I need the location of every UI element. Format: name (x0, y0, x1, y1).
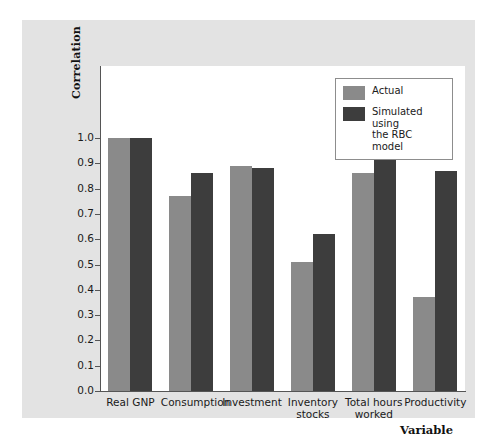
x-axis-category-label-line: Productivity (404, 396, 466, 408)
legend-label-actual: Actual (372, 85, 403, 97)
legend-swatch-actual (343, 86, 365, 100)
y-axis-tick-mark (95, 366, 101, 367)
x-axis-category-label: Consumption (161, 396, 222, 408)
y-axis-tick-mark (95, 265, 101, 266)
y-axis-tick-mark (95, 138, 101, 139)
x-axis-category-label: Total hoursworked (343, 396, 404, 420)
chart-figure: Correlation 1.00.90.80.70.60.50.40.30.20… (0, 0, 495, 438)
bar-simulated (252, 168, 274, 391)
x-axis-category-label-line: worked (355, 408, 393, 420)
figure-panel: Correlation 1.00.90.80.70.60.50.40.30.20… (22, 20, 475, 418)
y-axis-tick: 0.2 (22, 340, 106, 341)
bar-actual (108, 138, 130, 391)
x-axis-category-label-line: Total hours (345, 396, 402, 408)
legend-entry-actual: Actual (343, 85, 445, 100)
bar-actual (169, 196, 191, 391)
y-axis-tick-mark (95, 239, 101, 240)
y-axis-tick-mark (95, 290, 101, 291)
x-axis-title: Variable (400, 423, 453, 437)
x-axis-category-label-line: Investment (222, 396, 281, 408)
legend-swatch-simulated (343, 107, 365, 121)
y-axis-tick-label: 0.9 (77, 156, 94, 168)
x-axis-category-label: Productivity (404, 396, 465, 408)
bar-actual (413, 297, 435, 391)
x-axis-category-label-line: stocks (296, 408, 329, 420)
x-axis-category-label-line: Inventory (288, 396, 338, 408)
y-axis-tick-mark (95, 391, 101, 392)
y-axis-tick: 0.3 (22, 315, 106, 316)
y-axis-tick-mark (95, 189, 101, 190)
legend-entry-simulated: Simulated using the RBC model (343, 106, 445, 152)
bar-simulated (191, 173, 213, 391)
y-axis-tick-label: 0.6 (77, 232, 94, 244)
bar-simulated (374, 151, 396, 391)
y-axis-line (100, 66, 101, 392)
y-axis-tick: 0.8 (22, 189, 106, 190)
y-axis-tick-label: 0.3 (77, 308, 94, 320)
bar-simulated (130, 138, 152, 391)
y-axis-tick-label: 0.0 (77, 384, 94, 396)
y-axis-tick: 0.4 (22, 290, 106, 291)
y-axis-tick-label: 0.1 (77, 359, 94, 371)
x-axis-category-label-line: Real GNP (106, 396, 154, 408)
bar-simulated (313, 234, 335, 391)
y-axis-tick: 0.5 (22, 265, 106, 266)
x-axis-category-label: Real GNP (100, 396, 161, 408)
y-axis-tick: 0.1 (22, 366, 106, 367)
y-axis-tick: 0.0 (22, 391, 106, 392)
x-axis-category-label-line: Consumption (161, 396, 231, 408)
bar-actual (291, 262, 313, 391)
x-axis-category-label: Investment (222, 396, 283, 408)
y-axis-title: Correlation (70, 3, 83, 123)
legend-label-simulated: Simulated using the RBC model (372, 106, 445, 152)
y-axis-tick-label: 0.5 (77, 258, 94, 270)
x-axis-line (100, 391, 466, 392)
y-axis-tick: 0.7 (22, 214, 106, 215)
y-axis-tick-label: 0.7 (77, 207, 94, 219)
y-axis-tick: 0.9 (22, 163, 106, 164)
y-axis-tick-mark (95, 163, 101, 164)
y-axis-tick: 1.0 (22, 138, 106, 139)
chart-legend: Actual Simulated using the RBC model (335, 78, 453, 160)
bar-simulated (435, 171, 457, 391)
y-axis-tick-mark (95, 315, 101, 316)
bar-actual (352, 173, 374, 391)
y-axis-tick: 0.6 (22, 239, 106, 240)
y-axis-tick-label: 1.0 (77, 131, 94, 143)
bar-actual (230, 166, 252, 391)
y-axis-tick-mark (95, 214, 101, 215)
y-axis-tick-label: 0.8 (77, 182, 94, 194)
y-axis-tick-label: 0.4 (77, 283, 94, 295)
legend-label-simulated-line1: Simulated using (372, 106, 423, 129)
y-axis-tick-mark (95, 340, 101, 341)
legend-label-simulated-line2: the RBC model (372, 129, 412, 152)
y-axis-tick-label: 0.2 (77, 333, 94, 345)
x-axis-category-label: Inventorystocks (283, 396, 344, 420)
